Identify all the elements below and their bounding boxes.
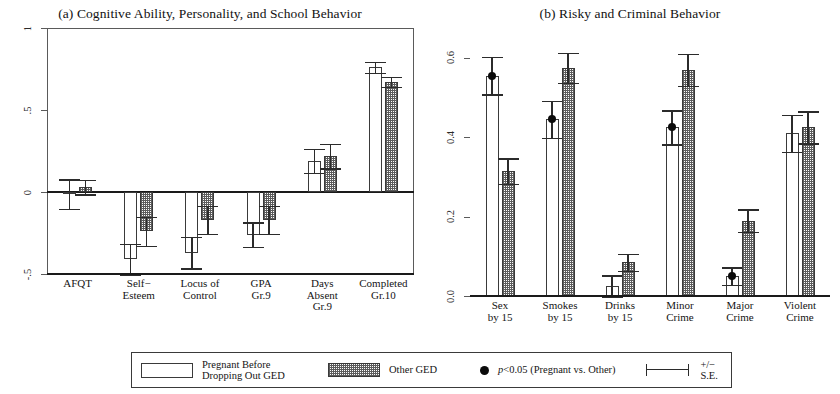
error-bar-line [391, 77, 392, 87]
error-bar-line [268, 206, 269, 234]
error-bar-line [252, 222, 253, 247]
panel-b-title: (b) Risky and Criminal Behavior [420, 6, 840, 22]
y-axis-tick-label: .5 [17, 102, 39, 118]
bar-pregnant [486, 76, 499, 296]
bar-pregnant [666, 127, 679, 296]
legend-open-label: Pregnant Before Dropping Out GED [202, 359, 285, 382]
legend-hatch-label: Other GED [389, 364, 437, 376]
bar-other [502, 171, 515, 296]
error-bar-line [207, 206, 208, 234]
bar-other [562, 68, 575, 296]
error-bar-cap [75, 180, 96, 181]
error-bar-cap [181, 268, 202, 269]
y-axis-tick [464, 217, 470, 218]
error-bar-line [330, 144, 331, 169]
error-bar-cap [197, 206, 218, 207]
error-bar-cap [542, 101, 563, 102]
panel-a-title: (a) Cognitive Ability, Personality, and … [0, 6, 420, 22]
significance-dot-icon [480, 366, 489, 375]
error-bar-cap [75, 194, 96, 195]
error-bar-cap [120, 244, 141, 245]
error-bar-cap [482, 94, 503, 95]
error-bar-cap [259, 234, 280, 235]
legend-se-label: +/− S.E. [700, 359, 731, 382]
error-bar-line [567, 53, 568, 83]
error-bar-cap [782, 152, 803, 153]
error-bar-line [69, 179, 70, 209]
error-bar-cap [602, 275, 623, 276]
zero-line [47, 191, 414, 193]
error-bar-cap [243, 247, 264, 248]
panel-a-plot-frame [47, 28, 414, 274]
error-bar-line [747, 209, 748, 231]
error-bar-cap [304, 173, 325, 174]
error-bar-line [791, 115, 792, 152]
error-bar-line [611, 275, 612, 296]
error-bar-cap [197, 234, 218, 235]
error-bar-cap [618, 254, 639, 255]
legend-p-rest: <0.05 (Pregnant vs. Other) [503, 364, 615, 375]
error-bar-cap [662, 144, 683, 145]
error-bar-line [85, 180, 86, 195]
error-bar-cap [381, 87, 402, 88]
x-axis-label: Violent Crime [754, 300, 840, 323]
legend-item-significance: p<0.05 (Pregnant vs. Other) [480, 353, 616, 387]
error-bar-line [314, 149, 315, 174]
error-bar-cap [304, 149, 325, 150]
open-bar-swatch-icon [141, 363, 193, 378]
error-bar-cap [136, 246, 157, 247]
error-bar-cap [59, 209, 80, 210]
bar-pregnant [546, 119, 559, 296]
error-bar-cap [498, 184, 519, 185]
error-bar-cap [738, 232, 759, 233]
hatched-bar-swatch-icon [328, 363, 380, 377]
error-bar-cap [618, 271, 639, 272]
error-bar-cap [381, 77, 402, 78]
error-bar-line [687, 54, 688, 86]
error-bar-line [191, 237, 192, 268]
error-bar-cap [722, 267, 743, 268]
legend-item-hatch: Other GED [328, 353, 437, 387]
error-bar-line [807, 111, 808, 143]
error-bar-cap [678, 86, 699, 87]
error-bar-cap [181, 237, 202, 238]
error-bar-cap [798, 111, 819, 112]
error-bar-cap [542, 138, 563, 139]
error-bar-cap [722, 285, 743, 286]
y-axis-tick-label: 0.4 [440, 129, 462, 145]
error-bar-line [130, 244, 131, 275]
error-bar-cap [498, 158, 519, 159]
y-axis-tick [464, 58, 470, 59]
error-bar-cap [602, 297, 623, 298]
y-axis-tick [41, 110, 47, 111]
significance-marker [488, 72, 496, 80]
y-axis-tick [41, 28, 47, 29]
error-bar-line [375, 62, 376, 73]
error-bar-icon [644, 364, 691, 376]
bar-other [802, 127, 815, 296]
error-bar-line [146, 217, 147, 247]
error-bar-cap [738, 209, 759, 210]
error-bar-cap [136, 217, 157, 218]
error-bar-cap [320, 144, 341, 145]
legend: Pregnant Before Dropping Out GED Other G… [131, 352, 732, 388]
error-bar-line [507, 158, 508, 183]
legend-significance-label: p<0.05 (Pregnant vs. Other) [498, 364, 616, 376]
x-axis-line [470, 295, 830, 297]
error-bar-cap [320, 168, 341, 169]
legend-item-se: +/− S.E. [644, 353, 731, 387]
x-axis-line [47, 273, 414, 275]
bar-pregnant [786, 133, 799, 296]
error-bar-cap [365, 62, 386, 63]
x-axis-label: Completed Gr.10 [337, 278, 429, 301]
error-bar-cap [259, 206, 280, 207]
bar-other [385, 82, 398, 192]
error-bar-cap [558, 53, 579, 54]
error-bar-cap [243, 222, 264, 223]
figure-root: (a) Cognitive Ability, Personality, and … [0, 0, 840, 394]
error-bar-cap [365, 73, 386, 74]
y-axis-tick-label: 0 [17, 184, 39, 200]
error-bar-cap [482, 57, 503, 58]
legend-item-open: Pregnant Before Dropping Out GED [141, 353, 285, 387]
error-bar-cap [678, 54, 699, 55]
